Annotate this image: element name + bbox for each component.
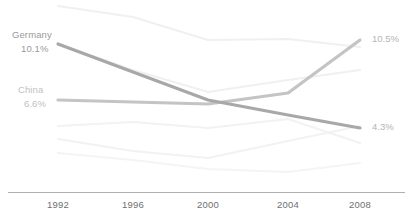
x-tick-1996: 1996	[111, 199, 155, 210]
annotation-germany: Germany 10.1%	[12, 24, 52, 55]
annotation-germany-value: 10.1%	[21, 44, 52, 55]
annotation-china-value: 6.6%	[24, 99, 46, 110]
series-line-5	[58, 119, 360, 143]
annotation-germany-name: Germany	[12, 29, 52, 40]
series-line-6	[58, 126, 360, 158]
annotation-china-end-value: 10.5%	[372, 34, 399, 45]
series-line-3	[58, 6, 360, 47]
annotation-germany-end-value: 4.3%	[372, 122, 394, 133]
chart-plot-area	[0, 0, 412, 218]
series-line-4	[58, 44, 360, 92]
annotation-china-name: China	[18, 84, 43, 95]
x-tick-1992: 1992	[36, 199, 80, 210]
series-line-china	[58, 40, 360, 104]
line-chart: Germany 10.1% China 6.6% 10.5% 4.3% 1992…	[0, 0, 412, 218]
x-tick-2000: 2000	[186, 199, 230, 210]
series-line-germany	[58, 44, 360, 128]
series-line-7	[58, 153, 360, 172]
annotation-china: China 6.6%	[18, 79, 46, 110]
x-tick-2008: 2008	[338, 199, 382, 210]
x-tick-2004: 2004	[266, 199, 310, 210]
